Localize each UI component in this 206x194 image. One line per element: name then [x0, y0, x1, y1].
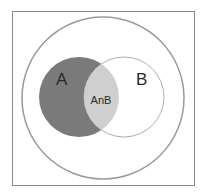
- venn-diagram: A B AnB: [0, 0, 206, 194]
- set-a-label: A: [56, 70, 68, 89]
- set-b-label: B: [136, 70, 147, 89]
- intersection-label: AnB: [91, 94, 112, 106]
